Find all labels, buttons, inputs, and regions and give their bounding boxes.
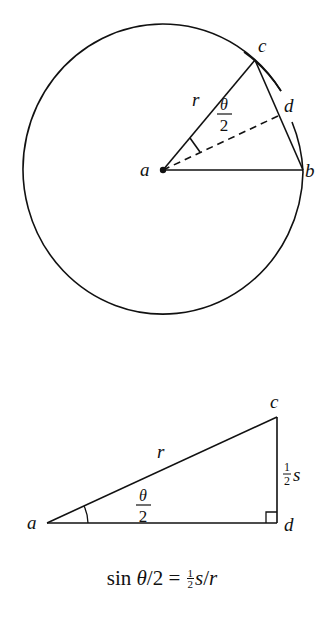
circle-arc-upper <box>244 52 281 91</box>
center-point-a <box>160 167 166 173</box>
label-c-top: c <box>258 35 267 56</box>
sine-formula: sin θ/2 = 12s/r <box>0 566 324 591</box>
svg-text:2: 2 <box>139 507 148 526</box>
svg-text:1: 1 <box>284 460 290 474</box>
formula-lhs-rest: /2 = <box>147 566 186 590</box>
angle-arc-bottom <box>84 506 88 523</box>
label-d-bottom: d <box>284 514 294 535</box>
label-r-top: r <box>192 89 200 110</box>
angle-arc <box>190 138 200 152</box>
half-s-label: 1 2 s <box>283 460 300 488</box>
label-c-bottom: c <box>270 391 279 412</box>
label-a-top: a <box>140 159 150 180</box>
angle-label-top: θ 2 <box>217 96 232 135</box>
formula-s: s <box>195 566 203 590</box>
hypotenuse-ac <box>47 417 277 523</box>
right-angle-marker <box>266 512 277 523</box>
svg-text:2: 2 <box>220 116 229 135</box>
geometry-diagram: a b c d r θ 2 a c d r θ 2 1 2 s <box>0 0 324 620</box>
formula-theta: θ <box>137 566 147 590</box>
formula-sin: sin <box>107 566 137 590</box>
svg-text:θ: θ <box>220 96 228 113</box>
label-r-bottom: r <box>157 441 165 462</box>
label-b-top: b <box>305 160 315 181</box>
label-d-top: d <box>284 95 294 116</box>
label-a-bottom: a <box>27 512 37 533</box>
chord-cb <box>255 60 303 170</box>
svg-text:θ: θ <box>139 487 147 504</box>
angle-label-bottom: θ 2 <box>136 487 151 526</box>
formula-half: 12 <box>187 568 195 589</box>
svg-text:2: 2 <box>284 474 290 488</box>
formula-r: r <box>209 566 217 590</box>
svg-text:s: s <box>293 464 300 485</box>
radius-ac <box>163 60 255 170</box>
right-triangle <box>47 417 277 523</box>
